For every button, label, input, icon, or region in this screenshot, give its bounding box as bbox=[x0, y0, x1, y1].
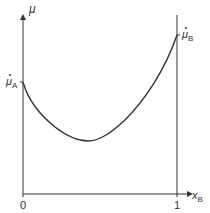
mu-b-symbol: μ bbox=[182, 29, 188, 40]
mu-a-subscript: A bbox=[12, 81, 17, 90]
x-axis-subscript: B bbox=[198, 195, 203, 204]
chart-canvas bbox=[0, 0, 210, 213]
mu-a-label: μA bbox=[6, 76, 17, 90]
y-axis-label: μ bbox=[29, 3, 36, 15]
mu-a-symbol: μ bbox=[6, 76, 12, 87]
x-tick-one-label: 1 bbox=[174, 200, 180, 211]
x-axis-label: xB bbox=[192, 190, 203, 204]
mu-b-subscript: B bbox=[188, 34, 193, 43]
x-tick-zero-label: 0 bbox=[20, 200, 26, 211]
mu-curve bbox=[23, 35, 177, 141]
mu-b-label: μB bbox=[182, 29, 193, 43]
